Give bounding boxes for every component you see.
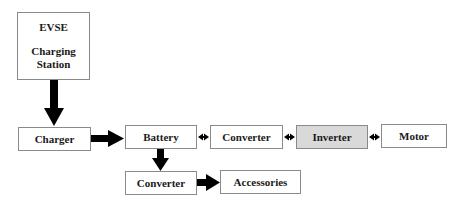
arrow-converter-to-accessories bbox=[197, 174, 220, 191]
arrow-battery-to-converter-aux bbox=[152, 149, 169, 171]
connector-arrows bbox=[0, 0, 462, 207]
arrow-evse-to-charger bbox=[44, 80, 64, 126]
arrow-battery-converter-bidirectional bbox=[198, 134, 209, 141]
arrow-inverter-motor-bidirectional bbox=[369, 134, 380, 141]
arrow-converter-inverter-bidirectional bbox=[284, 134, 295, 141]
arrow-charger-to-battery bbox=[91, 130, 124, 147]
